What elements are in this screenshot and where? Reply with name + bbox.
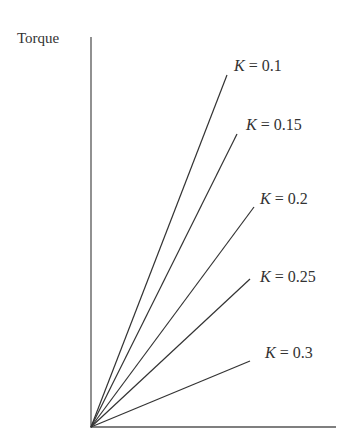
series-line-k-0.1 — [91, 75, 227, 427]
k-value: = 0.3 — [276, 344, 313, 361]
k-variable: K — [260, 268, 271, 285]
k-variable: K — [260, 190, 271, 207]
series-line-k-0.25 — [91, 279, 250, 427]
k-variable: K — [234, 57, 245, 74]
k-value: = 0.25 — [271, 268, 316, 285]
series-line-k-0.2 — [91, 207, 254, 427]
label-k-0.2: K = 0.2 — [260, 190, 308, 208]
series-line-k-0.15 — [91, 134, 237, 427]
k-value: = 0.15 — [257, 116, 302, 133]
k-value: = 0.2 — [271, 190, 308, 207]
label-k-0.15: K = 0.15 — [246, 116, 302, 134]
label-k-0.1: K = 0.1 — [234, 57, 282, 75]
k-variable: K — [265, 344, 276, 361]
torque-chart — [0, 0, 353, 448]
label-k-0.25: K = 0.25 — [260, 268, 316, 286]
k-variable: K — [246, 116, 257, 133]
label-k-0.3: K = 0.3 — [265, 344, 313, 362]
k-value: = 0.1 — [245, 57, 282, 74]
